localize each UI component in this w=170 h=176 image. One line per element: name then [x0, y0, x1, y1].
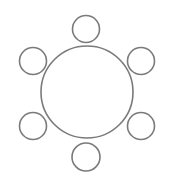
chair-bottom-right — [128, 113, 155, 140]
chair-top-right — [128, 48, 155, 75]
seating-diagram — [0, 0, 170, 176]
chair-top — [73, 16, 100, 43]
chair-top-left — [20, 48, 47, 75]
chair-bottom — [72, 143, 100, 171]
chair-bottom-left — [20, 113, 47, 140]
round-table — [41, 46, 133, 138]
